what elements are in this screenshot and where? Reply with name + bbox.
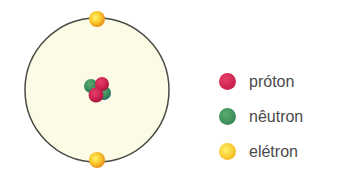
legend-item-proton: próton	[219, 64, 303, 99]
legend-item-neutron: nêutron	[219, 99, 303, 134]
electron-dot-icon	[219, 143, 236, 160]
electron-top	[89, 11, 105, 27]
neutron-dot-icon	[219, 108, 236, 125]
legend-item-electron: elétron	[219, 134, 303, 169]
electron-bottom	[89, 152, 105, 168]
legend-label: próton	[249, 73, 294, 91]
legend: próton nêutron elétron	[219, 64, 303, 169]
legend-label: elétron	[249, 143, 298, 161]
legend-label: nêutron	[249, 108, 303, 126]
proton-dot-icon	[219, 73, 236, 90]
